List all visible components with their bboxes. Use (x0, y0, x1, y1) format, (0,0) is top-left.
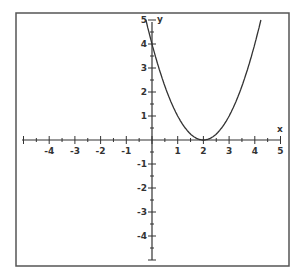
x-tick-label: 5 (277, 146, 283, 156)
x-tick-label: -3 (70, 146, 80, 156)
chart: -4-3-2-11234554321-1-2-3-4 x y (0, 0, 294, 269)
y-tick-label: 2 (141, 87, 147, 97)
x-axis-label: x (277, 124, 283, 134)
x-tick-label: 2 (200, 146, 206, 156)
y-tick-label: -1 (137, 159, 147, 169)
y-tick-label: -3 (137, 207, 147, 217)
x-tick-label: -2 (96, 146, 106, 156)
x-tick-label: 4 (252, 146, 258, 156)
x-tick-label: -1 (121, 146, 131, 156)
y-tick-label: -4 (137, 231, 147, 241)
y-tick-label: 4 (141, 39, 147, 49)
x-tick-label: 3 (226, 146, 232, 156)
y-axis-label: y (157, 14, 163, 24)
y-tick-label: 3 (141, 63, 147, 73)
y-tick-label: -2 (137, 183, 147, 193)
y-tick-label: 1 (141, 111, 147, 121)
x-tick-label: 1 (175, 146, 181, 156)
x-tick-label: -4 (44, 146, 54, 156)
